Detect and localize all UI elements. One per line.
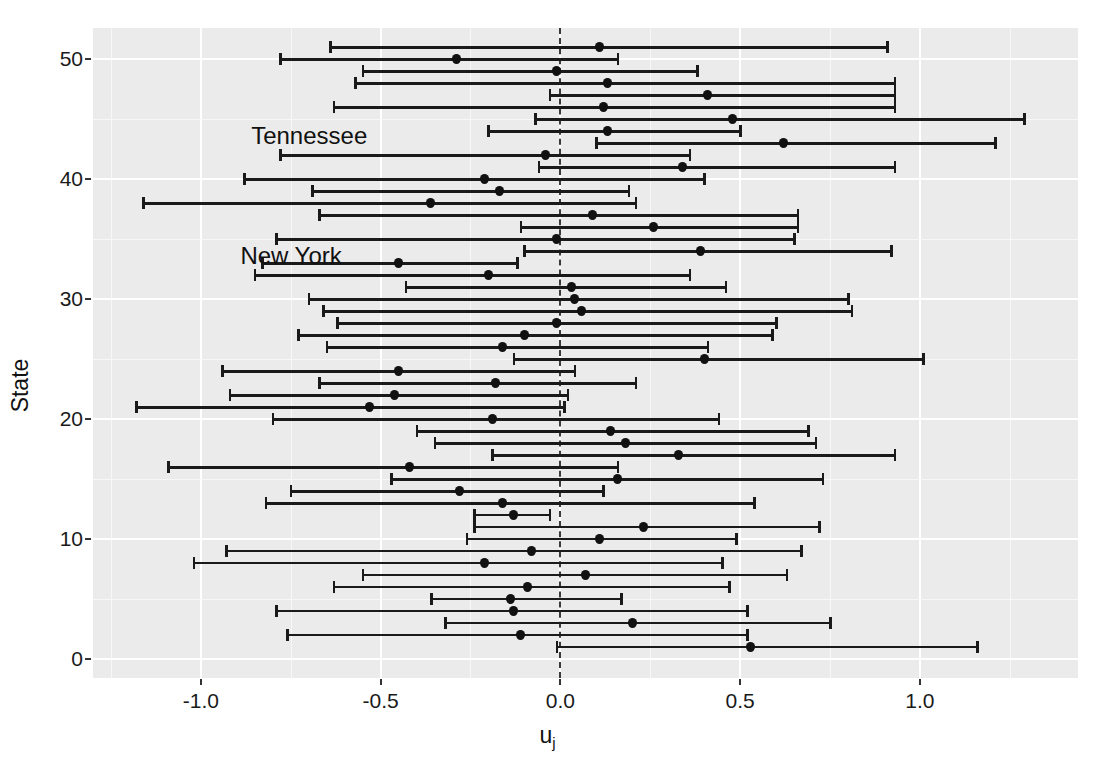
interval-cap-low [272,413,275,425]
estimate-point [606,426,615,436]
estimate-point [639,522,648,532]
y-axis-tick-mark [85,418,91,420]
estimate-point [498,342,507,352]
interval-cap-low [538,161,541,173]
estimate-point [621,438,630,448]
estimate-point [728,114,737,124]
x-axis-tick-label: -0.5 [362,689,398,713]
interval-row [93,401,1078,413]
estimate-point [577,306,586,316]
interval-row [93,629,1078,641]
state-annotation-label: New York [240,242,341,270]
estimate-point [588,210,597,220]
y-axis-tick-mark [85,178,91,180]
x-axis-tick-label: 0.5 [725,689,754,713]
interval-cap-high [894,449,897,461]
y-axis-tick-label: 30 [60,287,83,311]
interval-cap-high [851,305,854,317]
gridline-horizontal [93,658,1078,660]
interval-bar [244,178,704,181]
estimate-point [365,402,374,412]
estimate-point [674,450,683,460]
interval-cap-high [725,281,728,293]
interval-bar [445,622,830,625]
interval-cap-high [894,101,897,113]
interval-bar [319,214,797,217]
interval-cap-high [703,173,706,185]
interval-cap-high [635,197,638,209]
estimate-point [491,378,500,388]
interval-row [93,125,1078,137]
interval-cap-high [894,89,897,101]
interval-row [93,353,1078,365]
interval-row [93,137,1078,149]
interval-cap-low [229,389,232,401]
interval-cap-high [746,605,749,617]
interval-row [93,413,1078,425]
interval-cap-low [473,509,476,521]
interval-cap-high [793,233,796,245]
interval-bar [557,646,978,649]
interval-row [93,365,1078,377]
interval-row [93,221,1078,233]
interval-cap-high [696,65,699,77]
interval-row [93,77,1078,89]
interval-cap-low [290,485,293,497]
estimate-point [394,366,403,376]
estimate-point [603,126,612,136]
interval-cap-high [797,209,800,221]
y-axis-title-text: State [8,358,35,412]
interval-row [93,281,1078,293]
interval-cap-low [434,437,437,449]
y-axis-title: State [6,0,36,770]
interval-cap-high [728,581,731,593]
interval-cap-low [523,245,526,257]
estimate-point [595,42,604,52]
interval-cap-low [326,341,329,353]
interval-cap-low [595,137,598,149]
estimate-point [516,630,525,640]
interval-cap-high [994,137,997,149]
estimate-point [678,162,687,172]
estimate-point [390,390,399,400]
interval-cap-high [689,269,692,281]
interval-row [93,269,1078,281]
interval-cap-high [894,161,897,173]
state-annotation-label: Tennessee [251,122,367,150]
interval-row [93,41,1078,53]
interval-bar [298,334,773,337]
interval-cap-low [318,209,321,221]
interval-bar [319,382,635,385]
estimate-point [696,246,705,256]
estimate-point [703,90,712,100]
interval-row [93,389,1078,401]
estimate-point [484,270,493,280]
interval-row [93,149,1078,161]
x-axis-tick-label: -1.0 [183,689,219,713]
interval-row [93,425,1078,437]
estimate-point [498,498,507,508]
interval-cap-high [549,509,552,521]
y-axis-tick-mark [85,58,91,60]
interval-bar [276,238,794,241]
interval-cap-low [405,281,408,293]
interval-bar [431,598,622,601]
interval-cap-low [473,521,476,533]
interval-cap-low [549,89,552,101]
interval-cap-low [430,593,433,605]
interval-row [93,185,1078,197]
interval-row [93,485,1078,497]
interval-cap-low [491,449,494,461]
interval-cap-low [193,557,196,569]
interval-cap-high [617,461,620,473]
interval-cap-high [894,77,897,89]
interval-cap-low [362,569,365,581]
interval-row [93,317,1078,329]
interval-row [93,341,1078,353]
interval-cap-low [254,269,257,281]
estimate-point [394,258,403,268]
y-axis-tick-mark [85,298,91,300]
interval-cap-high [922,353,925,365]
interval-row [93,305,1078,317]
estimate-point [552,66,561,76]
